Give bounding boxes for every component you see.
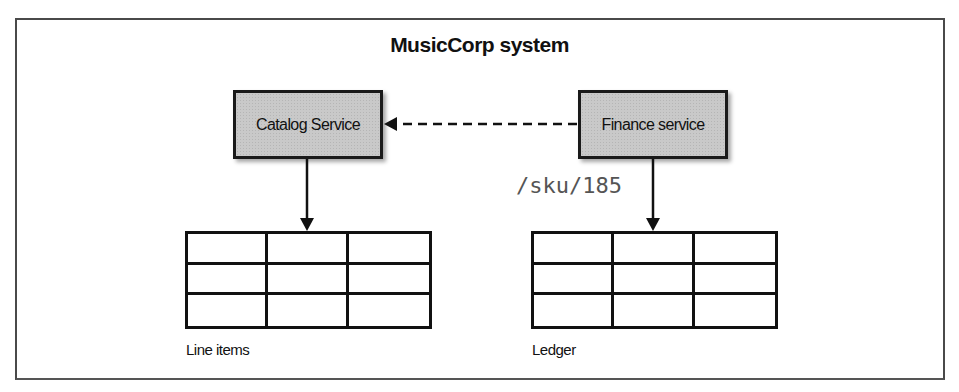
table-cell <box>349 234 429 265</box>
table-cell <box>188 234 268 265</box>
table-cell <box>695 295 775 326</box>
table-cell <box>534 295 614 326</box>
table-cell <box>268 265 348 296</box>
table-cell <box>534 265 614 296</box>
table-cell <box>695 265 775 296</box>
table-cell <box>268 295 348 326</box>
table-cell <box>349 265 429 296</box>
table-cell <box>695 234 775 265</box>
table-cell <box>268 234 348 265</box>
table-cell <box>349 295 429 326</box>
arrowhead-down-icon <box>300 218 314 231</box>
table-cell <box>534 234 614 265</box>
connector-arrows <box>0 0 959 392</box>
arrowhead-down-icon <box>646 218 660 231</box>
sku-annotation: /sku/185 <box>516 173 622 198</box>
line-items-label: Line items <box>186 341 249 358</box>
table-cell <box>614 265 694 296</box>
ledger-label: Ledger <box>532 341 576 358</box>
table-cell <box>188 295 268 326</box>
table-cell <box>614 234 694 265</box>
arrowhead-left-icon <box>384 117 397 131</box>
ledger-table <box>531 231 778 329</box>
table-cell <box>188 265 268 296</box>
table-cell <box>614 295 694 326</box>
line-items-table <box>185 231 432 329</box>
